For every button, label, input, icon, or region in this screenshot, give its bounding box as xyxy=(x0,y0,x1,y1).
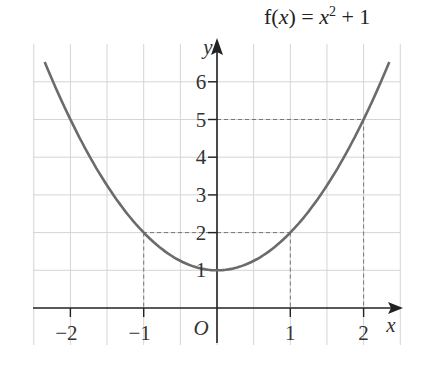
axes xyxy=(33,38,403,343)
origin-label: O xyxy=(193,316,208,340)
y-tick-label: 5 xyxy=(196,108,207,132)
x-tick-label: −1 xyxy=(129,321,151,345)
plot-area: −2−112123456Oxy xyxy=(0,0,435,368)
y-axis-label: y xyxy=(201,35,213,59)
x-tick-label: 2 xyxy=(358,321,369,345)
y-tick-label: 6 xyxy=(196,70,207,94)
y-tick-label: 4 xyxy=(196,145,207,169)
x-tick-label: −2 xyxy=(55,321,77,345)
x-tick-label: 1 xyxy=(285,321,296,345)
y-tick-label: 3 xyxy=(196,183,207,207)
x-axis-label: x xyxy=(385,313,396,337)
y-tick-label: 1 xyxy=(196,258,207,282)
y-tick-label: 2 xyxy=(196,221,207,245)
